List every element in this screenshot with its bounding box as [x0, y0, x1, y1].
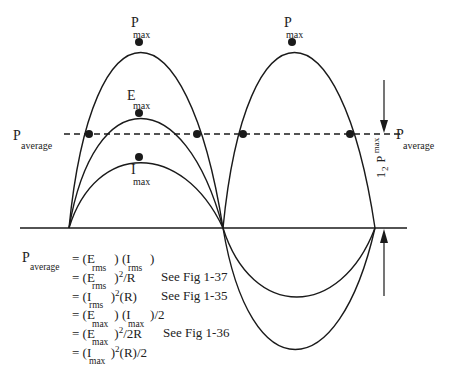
half-fraction-den: 2 [380, 167, 390, 172]
p-max-sub-left: max [133, 30, 150, 40]
p-average-dot-1 [85, 130, 93, 138]
half-p-max-label: 12 P max [372, 138, 390, 178]
p-max-label-left: P [131, 16, 139, 30]
half-p: P [374, 156, 388, 162]
p-max-sub-right: max [286, 30, 303, 40]
current-curve-negative [223, 228, 375, 297]
p-average-dot-2 [193, 130, 201, 138]
see-fig-1-35: See Fig 1-35 [161, 289, 227, 302]
eq-line-6-sub: max [89, 357, 105, 367]
bottom-arrow-head [380, 229, 388, 243]
power-curve-hump-1 [69, 53, 223, 229]
power-curve-hump-2 [223, 53, 375, 229]
see-fig-1-37: See Fig 1-37 [161, 270, 227, 283]
p-average-dot-4 [346, 130, 354, 138]
current-curve-positive [69, 163, 223, 228]
half-fraction-num: 1 [374, 172, 388, 178]
i-max-label: I [131, 163, 136, 177]
see-fig-1-36: See Fig 1-36 [163, 326, 229, 339]
voltage-curve-negative [223, 228, 375, 350]
eq-line-4: = (E ) (I )/2 [72, 308, 165, 321]
i-max-sub: max [133, 177, 150, 187]
eq-line-3: = (I )2(R) [72, 289, 137, 303]
i-max-dot [135, 153, 143, 161]
p-max-label-right: P [284, 16, 292, 30]
p-average-sub-right: average [403, 141, 434, 151]
top-arrow-head [380, 120, 388, 133]
e-max-sub: max [133, 101, 150, 111]
p-average-label-left: P [13, 129, 21, 143]
eq-line-6: = (I )2(R)/2 [72, 345, 147, 359]
eq-lhs-main: P [22, 251, 30, 265]
half-sub: max [371, 138, 381, 154]
p-average-dot-3 [239, 130, 247, 138]
p-average-sub-left: average [21, 141, 52, 151]
eq-lhs-sub: average [30, 263, 60, 273]
